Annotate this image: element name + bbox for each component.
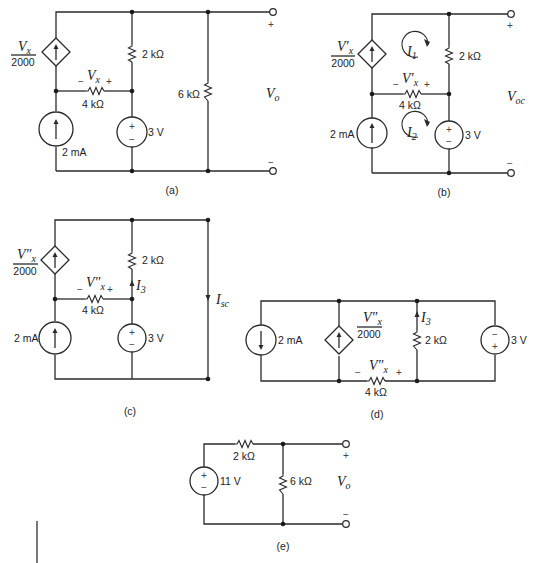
resistor-2k — [446, 46, 453, 64]
caption: (a) — [166, 184, 179, 196]
node-dot — [281, 522, 286, 527]
terminal — [343, 521, 350, 528]
source-label: 3 V — [511, 334, 527, 346]
node-dot — [130, 169, 135, 174]
vx-label: V′x — [402, 71, 419, 88]
resistor-4k — [86, 88, 104, 95]
plus-sign: + — [343, 450, 349, 461]
node-dot — [415, 379, 420, 384]
circuit-c: + − V″x 2000 2 kΩ I3 − V″x + 4 kΩ 2 mA 3… — [13, 218, 230, 417]
current-arrow-up-icon — [130, 280, 135, 286]
dep-source-denominator: 2000 — [357, 328, 381, 340]
dep-source-denominator: 2000 — [11, 56, 35, 68]
resistor-label: 2 kΩ — [425, 334, 447, 346]
wire — [372, 14, 508, 40]
minus-sign: − — [492, 329, 498, 340]
source-label: 3 V — [148, 126, 164, 138]
vx-label: V″x — [369, 358, 388, 375]
plus-sign: + — [424, 79, 430, 90]
terminal — [343, 441, 350, 448]
source-label: 3 V — [148, 332, 164, 344]
node-dot — [206, 377, 211, 382]
minus-sign: − — [355, 367, 361, 378]
minus-sign: − — [343, 509, 349, 520]
node-dot — [447, 171, 452, 176]
node-dot — [337, 379, 342, 384]
source-label: 2 mA — [330, 128, 355, 140]
dep-source-numerator: V″x — [363, 310, 382, 327]
branch-current-I3: I3 — [420, 310, 431, 327]
wire — [56, 12, 270, 40]
minus-sign: − — [446, 136, 452, 147]
current-arrow-down-icon — [206, 295, 211, 301]
source-label: 2 mA — [14, 332, 39, 344]
wire — [261, 355, 367, 381]
vx-label: Vx — [87, 68, 101, 85]
resistor-2k — [129, 44, 136, 62]
vx-label: V″x — [86, 275, 105, 292]
caption: (d) — [371, 408, 384, 420]
resistor-4k — [367, 378, 385, 385]
mesh-current-I2: I2 — [406, 125, 417, 142]
node-dot — [370, 92, 375, 97]
resistor-6k — [280, 474, 287, 494]
resistor-2k — [414, 330, 421, 350]
minus-sign: − — [507, 158, 513, 169]
wire — [204, 444, 235, 467]
node-dot — [54, 89, 59, 94]
resistor-label: 2 kΩ — [233, 450, 255, 462]
circuit-e: + − 2 kΩ 11 V 6 kΩ + − Vo (e) — [190, 441, 351, 553]
caption: (c) — [124, 405, 136, 417]
caption: (e) — [277, 540, 290, 552]
node-dot — [206, 10, 211, 15]
resistor-label: 4 kΩ — [399, 99, 421, 111]
minus-sign: − — [201, 482, 207, 493]
minus-sign: − — [268, 157, 274, 168]
node-dot — [447, 12, 452, 17]
node-dot — [447, 92, 452, 97]
mesh-current-I1: I1 — [406, 44, 417, 61]
node-dot — [206, 218, 211, 223]
source-label: 11 V — [220, 475, 241, 487]
minus-sign: − — [129, 339, 135, 350]
resistor-4k — [403, 91, 421, 98]
current-arrow-up-icon — [415, 311, 420, 317]
output-voltage-label: Vo — [266, 86, 280, 103]
dep-source-numerator: V′x — [337, 39, 354, 56]
resistor-6k — [205, 81, 212, 101]
output-voltage-label: Vo — [337, 474, 351, 491]
resistor-4k — [85, 296, 103, 303]
wire — [204, 495, 343, 524]
resistor-label: 2 kΩ — [142, 254, 164, 266]
resistor-label: 4 kΩ — [365, 386, 387, 398]
dep-source-denominator: 2000 — [13, 265, 37, 277]
plus-sign: + — [507, 20, 513, 31]
terminal — [270, 9, 277, 16]
caption: (b) — [438, 186, 451, 198]
dep-source-numerator: Vx — [18, 39, 32, 56]
source-label: 2 mA — [62, 146, 87, 158]
node-dot — [130, 89, 135, 94]
node-dot — [337, 299, 342, 304]
plus-sign: + — [492, 341, 498, 352]
node-dot — [130, 218, 135, 223]
resistor-label: 6 kΩ — [290, 475, 312, 487]
minus-sign: − — [393, 79, 399, 90]
terminal — [508, 170, 515, 177]
dep-source-numerator: V″x — [17, 247, 36, 264]
resistor-label: 4 kΩ — [82, 304, 104, 316]
minus-sign: − — [77, 284, 83, 295]
resistor-label: 6 kΩ — [178, 88, 200, 100]
resistor-2k — [129, 251, 136, 269]
source-label: 2 mA — [278, 334, 303, 346]
circuit-d: − + 2 mA V″x 2000 I3 2 kΩ 3 V − V″x + 4 … — [246, 299, 527, 420]
resistor-label: 2 kΩ — [142, 48, 164, 60]
short-circuit-current-label: Isc — [215, 292, 230, 309]
plus-sign: + — [268, 19, 274, 30]
plus-sign: + — [107, 284, 113, 295]
node-dot — [206, 169, 211, 174]
node-dot — [130, 297, 135, 302]
circuit-figure: + − Vx 2000 2 kΩ − Vx + 4 kΩ 6 kΩ 2 mA 3… — [0, 0, 538, 563]
output-voltage-label: Voc — [507, 89, 526, 106]
node-dot — [415, 299, 420, 304]
